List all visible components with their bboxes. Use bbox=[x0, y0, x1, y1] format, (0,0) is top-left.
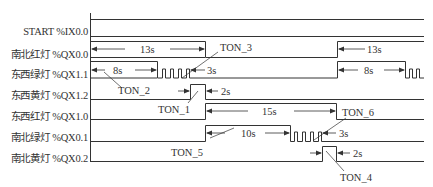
ew-green-duration: 8s bbox=[113, 65, 122, 76]
ton5-label: TON_5 bbox=[171, 147, 203, 158]
ton1-label: TON_1 bbox=[158, 104, 190, 115]
ton2-label: TON_2 bbox=[118, 85, 150, 96]
timing-diagram: 13s 13s 8s 8s 3s 2s 15s 10s 3s 2s TON_3 … bbox=[0, 0, 433, 187]
ew-red-waveform bbox=[90, 104, 424, 120]
ew-yellow-duration: 2s bbox=[221, 86, 230, 97]
ns-green-waveform bbox=[90, 126, 424, 142]
ew-green-repeat-duration: 8s bbox=[364, 65, 373, 76]
ns-yellow-waveform bbox=[90, 147, 424, 162]
ew-red-duration: 15s bbox=[262, 106, 277, 117]
ton3-label: TON_3 bbox=[220, 42, 252, 53]
ns-red-duration: 13s bbox=[140, 44, 155, 55]
ew-green-flash-duration: 3s bbox=[207, 65, 216, 76]
ton1-leader bbox=[188, 91, 198, 103]
ns-red-repeat-duration: 13s bbox=[367, 44, 382, 55]
ton4-label: TON_4 bbox=[340, 172, 373, 183]
ns-green-duration: 10s bbox=[241, 128, 256, 139]
ns-yellow-duration: 2s bbox=[353, 148, 362, 159]
ton6-label: TON_6 bbox=[342, 107, 374, 118]
ns-green-flash-duration: 3s bbox=[339, 128, 348, 139]
